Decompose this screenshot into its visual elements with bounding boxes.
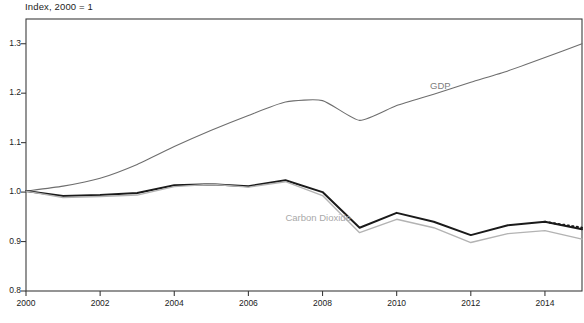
series-projection-dotted — [545, 222, 582, 228]
plot-area — [0, 0, 584, 323]
x-axis-tick-label: 2012 — [451, 298, 491, 308]
plot-frame — [26, 19, 582, 291]
x-axis-tick-label: 2004 — [154, 298, 194, 308]
series-label-gdp: GDP — [430, 80, 451, 91]
y-axis-tick-label: 1.1 — [1, 137, 21, 147]
series-label-carbon-dioxide: Carbon Dioxide — [285, 212, 350, 223]
chart-svg — [0, 0, 584, 323]
y-axis-tick-label: 0.8 — [1, 285, 21, 295]
x-axis-tick-label: 2010 — [377, 298, 417, 308]
x-axis-tick-label: 2014 — [525, 298, 565, 308]
chart-footnote — [40, 314, 580, 323]
y-axis-tick-label: 1.2 — [1, 87, 21, 97]
y-axis-tick-label: 0.9 — [1, 236, 21, 246]
chart-figure: Index, 2000 = 1 0.80.91.01.11.21.3200020… — [0, 0, 584, 323]
y-axis-tick-label: 1.3 — [1, 38, 21, 48]
x-axis-tick-label: 2008 — [303, 298, 343, 308]
series-line-gdp — [26, 44, 582, 191]
x-axis-tick-label: 2002 — [80, 298, 120, 308]
y-axis-tick-label: 1.0 — [1, 186, 21, 196]
x-axis-tick-label: 2006 — [228, 298, 268, 308]
x-axis-tick-label: 2000 — [6, 298, 46, 308]
